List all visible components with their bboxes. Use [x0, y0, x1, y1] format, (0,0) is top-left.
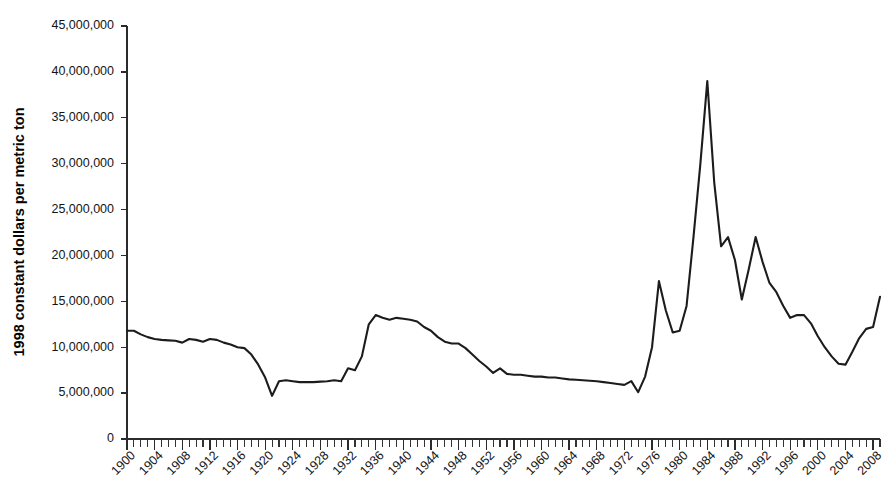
- x-axis-tick-label: 1924: [274, 448, 304, 478]
- y-axis-tick-label: 5,000,000: [58, 385, 114, 399]
- y-axis-tick-label: 15,000,000: [51, 294, 114, 308]
- x-axis-tick-marks: [127, 439, 880, 450]
- x-axis-tick-label: 1968: [578, 448, 608, 478]
- chart-container: 1998 constant dollars per metric ton 05,…: [0, 0, 887, 503]
- x-axis-tick-label: 1980: [661, 448, 691, 478]
- x-axis-tick-label: 1952: [468, 448, 498, 478]
- x-axis-tick-label: 1920: [247, 448, 277, 478]
- x-axis-tick-label: 1936: [357, 448, 387, 478]
- line-chart: 1998 constant dollars per metric ton 05,…: [0, 0, 887, 503]
- x-axis-tick-label: 2004: [827, 448, 857, 478]
- x-axis-tick-label: 2000: [799, 448, 829, 478]
- y-axis-tick-marks: [121, 26, 127, 439]
- x-axis-tick-label: 2008: [855, 448, 885, 478]
- x-axis-tick-label: 1912: [191, 448, 221, 478]
- x-axis-tick-label: 1916: [219, 448, 249, 478]
- x-axis-tick-label: 1908: [164, 448, 194, 478]
- y-axis-tick-label: 45,000,000: [51, 18, 114, 32]
- y-axis-tick-label: 40,000,000: [51, 64, 114, 78]
- y-axis-tick-labels: 05,000,00010,000,00015,000,00020,000,000…: [51, 18, 114, 445]
- x-axis-tick-label: 1972: [606, 448, 636, 478]
- x-axis-tick-label: 1944: [413, 448, 443, 478]
- x-axis-tick-label: 1900: [109, 448, 139, 478]
- x-axis-tick-label: 1948: [440, 448, 470, 478]
- x-axis-tick-label: 1904: [136, 448, 166, 478]
- y-axis-tick-label: 20,000,000: [51, 248, 114, 262]
- x-axis-tick-label: 1928: [302, 448, 332, 478]
- x-axis-tick-label: 1988: [716, 448, 746, 478]
- x-axis-tick-label: 1940: [385, 448, 415, 478]
- data-series-line: [127, 81, 880, 396]
- y-axis-tick-label: 10,000,000: [51, 340, 114, 354]
- y-axis-tick-label: 35,000,000: [51, 110, 114, 124]
- x-axis-tick-labels: 1900190419081912191619201924192819321936…: [109, 448, 885, 478]
- x-axis-tick-label: 1976: [634, 448, 664, 478]
- y-axis-tick-label: 30,000,000: [51, 156, 114, 170]
- x-axis-tick-label: 1932: [330, 448, 360, 478]
- x-axis-tick-label: 1992: [744, 448, 774, 478]
- x-axis-tick-label: 1984: [689, 448, 719, 478]
- y-axis-tick-label: 25,000,000: [51, 202, 114, 216]
- x-axis-tick-label: 1964: [551, 448, 581, 478]
- x-axis-tick-label: 1960: [523, 448, 553, 478]
- x-axis-tick-label: 1996: [772, 448, 802, 478]
- y-axis-title: 1998 constant dollars per metric ton: [11, 108, 27, 357]
- x-axis-tick-label: 1956: [495, 448, 525, 478]
- y-axis-tick-label: 0: [107, 431, 114, 445]
